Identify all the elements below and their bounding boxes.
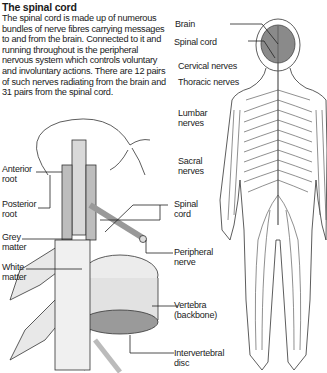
label-anterior-root: Anterior root <box>2 164 32 184</box>
human-body-nervous-system-figure <box>220 19 327 370</box>
label-white-matter: White matter <box>2 262 26 282</box>
spinal-cord-cross-section-figure <box>10 119 158 372</box>
label-grey-matter: Grey matter <box>2 232 26 252</box>
label-spinal-cord-section: Spinal cord <box>174 199 198 219</box>
label-lumbar-nerves: Lumbar nerves <box>178 108 207 128</box>
label-brain: Brain <box>175 19 195 29</box>
label-spinal-cord: Spinal cord <box>174 37 217 47</box>
label-vertebra: Vertebra (backbone) <box>174 300 217 320</box>
label-cervical-nerves: Cervical nerves <box>178 61 237 71</box>
label-peripheral-nerve: Peripheral nerve <box>174 247 213 267</box>
label-intervertebral-disc: Intervertebral disc <box>174 348 224 368</box>
anatomy-illustration <box>0 0 327 373</box>
label-posterior-root: Posterior root <box>2 199 36 219</box>
label-thoracic-nerves: Thoracic nerves <box>178 77 239 87</box>
label-sacral-nerves: Sacral nerves <box>178 156 204 176</box>
